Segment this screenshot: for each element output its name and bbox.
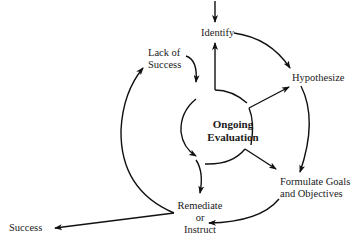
node-lack-of-success-line2: Success <box>148 59 181 71</box>
node-remediate-line1: Remediate <box>170 200 230 212</box>
identify-to-hypothesize-arrow <box>234 33 290 68</box>
center-ongoing: Ongoing <box>193 118 273 130</box>
evaluation-circle-bottom-arc <box>205 149 245 164</box>
node-lack-of-success-line1: Lack of <box>148 47 180 59</box>
node-formulate-line1: Formulate Goals <box>280 176 350 188</box>
center-evaluation: Evaluation <box>193 131 273 143</box>
node-formulate-line2: and Objectives <box>280 188 343 200</box>
evaluation-to-formulate-arrow <box>245 149 276 169</box>
node-success: Success <box>9 222 42 234</box>
evaluation-to-remediate-arrow <box>196 160 201 193</box>
node-hypothesize: Hypothesize <box>292 72 345 84</box>
evaluation-to-hypothesize-arrow <box>249 87 289 108</box>
lack-to-evaluation-arrow <box>186 56 196 82</box>
node-remediate-line3: Instruct <box>170 224 230 236</box>
remediate-to-success-arrow <box>55 213 174 228</box>
node-identify: Identify <box>201 27 234 39</box>
node-remediate-line2: or <box>170 212 230 224</box>
hypothesize-to-formulate-arrow <box>300 86 309 172</box>
remediate-to-lack-arrow <box>121 68 174 213</box>
evaluation-circle-top-arc <box>215 90 247 103</box>
